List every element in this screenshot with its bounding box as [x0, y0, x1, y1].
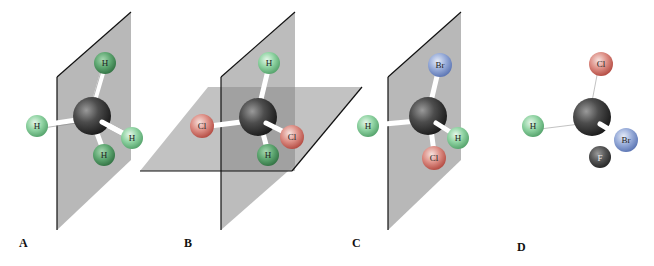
- atom-carbon: [239, 98, 277, 136]
- molecular-symmetry-figure: H H H H H Cl Cl H: [0, 0, 654, 266]
- svg-text:F: F: [597, 153, 602, 163]
- panel-c: Br H H Cl: [357, 12, 469, 230]
- panel-label-b: B: [184, 236, 192, 251]
- svg-text:Br: Br: [436, 60, 445, 70]
- svg-text:H: H: [455, 133, 462, 143]
- svg-text:H: H: [129, 133, 136, 143]
- svg-text:Cl: Cl: [288, 132, 297, 142]
- panel-b: H Cl Cl H: [140, 12, 362, 230]
- panel-d: Cl H Br F: [522, 52, 638, 168]
- svg-text:Cl: Cl: [198, 121, 207, 131]
- svg-text:H: H: [266, 58, 273, 68]
- panel-label-c: C: [352, 236, 361, 251]
- panel-a: H H H H: [26, 12, 143, 230]
- atom-carbon: [73, 97, 111, 135]
- svg-text:H: H: [265, 150, 272, 160]
- svg-text:H: H: [102, 58, 109, 68]
- svg-text:H: H: [101, 150, 108, 160]
- atom-carbon: [573, 98, 611, 136]
- svg-text:H: H: [530, 121, 537, 131]
- panel-label-d: D: [517, 240, 526, 255]
- svg-text:Br: Br: [622, 135, 631, 145]
- svg-text:H: H: [365, 121, 372, 131]
- svg-text:Cl: Cl: [597, 59, 606, 69]
- svg-text:H: H: [34, 121, 41, 131]
- svg-text:Cl: Cl: [430, 153, 439, 163]
- panel-label-a: A: [19, 236, 28, 251]
